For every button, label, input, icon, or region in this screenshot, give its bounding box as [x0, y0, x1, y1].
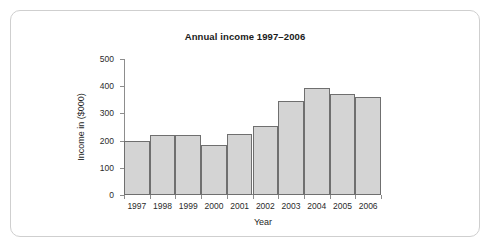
- x-axis-tick-label: 1999: [179, 201, 198, 211]
- y-axis-title: Income in ($000): [76, 93, 86, 161]
- bar-2005: [330, 94, 356, 195]
- x-axis-tick: [227, 195, 228, 199]
- chart-card: Annual income 1997–2006 Income in ($000)…: [10, 10, 480, 237]
- y-axis-tick: 500: [120, 59, 124, 60]
- bar-2001: [227, 134, 253, 195]
- x-axis-tick-label: 2001: [230, 201, 249, 211]
- x-axis-tick-label: 1998: [153, 201, 172, 211]
- x-axis-tick: [381, 195, 382, 199]
- x-axis-tick-label: 1997: [127, 201, 146, 211]
- bar-2002: [253, 126, 279, 195]
- x-axis-tick: [330, 195, 331, 199]
- x-axis-tick: [355, 195, 356, 199]
- x-axis-tick-label: 2003: [282, 201, 301, 211]
- x-axis-tick: [175, 195, 176, 199]
- y-axis-tick: 400: [120, 86, 124, 87]
- x-axis-tick: [124, 195, 125, 199]
- chart-title: Annual income 1997–2006: [11, 31, 479, 42]
- x-axis-tick: [150, 195, 151, 199]
- bar-1999: [175, 135, 201, 195]
- x-axis-title-text: Year: [218, 217, 272, 227]
- y-axis-tick-label: 500: [100, 54, 114, 64]
- x-axis-tick: [304, 195, 305, 199]
- x-axis-tick-label: 2005: [333, 201, 352, 211]
- bar-2006: [355, 97, 381, 195]
- y-axis-tick-label: 400: [100, 81, 114, 91]
- x-axis-tick-label: 2002: [256, 201, 275, 211]
- bar-1998: [150, 135, 176, 195]
- x-axis-tick-label: 2004: [307, 201, 326, 211]
- x-axis-tick: [253, 195, 254, 199]
- y-axis-tick-label: 200: [100, 136, 114, 146]
- x-axis-tick-label: 2000: [204, 201, 223, 211]
- bar-2000: [201, 145, 227, 195]
- x-axis-tick: [278, 195, 279, 199]
- y-axis-tick-label: 100: [100, 163, 114, 173]
- bar-2003: [278, 101, 304, 195]
- x-axis-tick-label: 2006: [359, 201, 378, 211]
- y-axis-tick-label: 300: [100, 108, 114, 118]
- plot-area: 0100200300400500 19971998199920002001200…: [124, 59, 381, 195]
- bar-1997: [124, 141, 150, 195]
- bar-2004: [304, 88, 330, 195]
- y-axis-tick: 300: [120, 113, 124, 114]
- x-axis-tick: [201, 195, 202, 199]
- x-axis-title: Year: [11, 217, 479, 227]
- y-axis-tick-label: 0: [109, 190, 114, 200]
